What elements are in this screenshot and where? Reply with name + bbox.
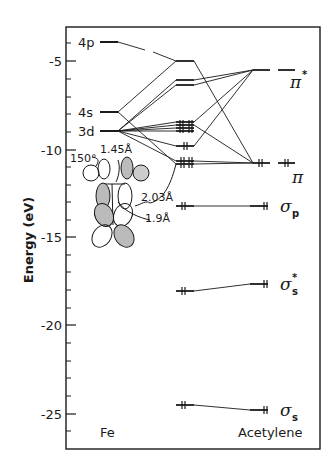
orbital-lobe [88,221,117,251]
annotation-bond-cc: 1.45Å [100,143,132,156]
y-tick-label: -20 [41,318,62,333]
acetylene-label-sigma-p: σ p [280,196,299,219]
complex-levels [176,61,194,405]
y-tick-label: -25 [41,407,62,422]
orbital-lobe [110,221,139,251]
orbital-lobe [98,159,110,179]
plot-frame [66,27,320,449]
orbital-lobe [133,165,149,181]
fe-levels [100,42,118,131]
svg-text:p: p [292,208,299,219]
column-label-fe: Fe [100,425,115,440]
annotation-bond-fec: 2.03Å [141,191,173,204]
acetylene-levels [250,70,295,410]
y-tick-label: -5 [49,54,62,69]
svg-text:s: s [292,286,298,297]
svg-text:s: s [292,412,298,423]
y-tick-label: -15 [41,230,62,245]
svg-text:π: π [289,72,302,92]
svg-text:*: * [292,272,298,283]
orbital-lobe [83,165,99,181]
svg-text:σ: σ [280,400,292,420]
acetylene-label-pi: π [291,167,304,187]
fe-level-label-3d: 3d [78,124,95,139]
fe-level-label-4s: 4s [78,105,93,120]
svg-text:π: π [291,167,304,187]
mo-energy-diagram: -5 -10 -15 -20 -25 Energy (eV) Fe Acetyl… [0,0,335,472]
correlation-lines [118,42,253,410]
svg-text:σ: σ [280,274,292,294]
acetylene-label-pi-star: π * [289,69,308,92]
acetylene-label-sigma-s-star: σ s * [280,272,298,297]
svg-text:σ: σ [280,196,292,216]
column-label-acetylene: Acetylene [238,425,302,440]
annotation-bond-fe: 1.9Å [145,212,170,225]
fe-level-label-4p: 4p [78,35,95,50]
y-tick-label: -10 [41,143,62,158]
y-axis-label: Energy (eV) [21,197,36,283]
acetylene-label-sigma-s: σ s [280,400,298,423]
annotation-angle: 150° [70,152,97,165]
svg-text:*: * [302,69,308,80]
orbital-lobe [121,157,133,179]
